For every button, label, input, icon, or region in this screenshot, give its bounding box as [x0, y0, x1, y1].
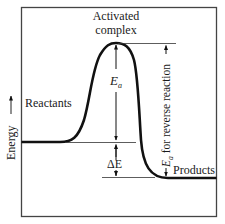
- plot-frame: [22, 8, 217, 217]
- ea-forward-label: Ea: [109, 73, 122, 90]
- energy-diagram: Energy Ea ΔE Ea for reverse reaction: [0, 0, 225, 224]
- energy-axis: Energy: [4, 96, 18, 160]
- ea-reverse-label: Ea for reverse reaction: [160, 64, 175, 168]
- products-label: Products: [173, 163, 215, 177]
- reactants-label: Reactants: [25, 96, 72, 110]
- activated-complex-label-line2: complex: [95, 23, 136, 37]
- activated-complex-label-line1: Activated: [93, 9, 140, 23]
- energy-axis-label: Energy: [4, 126, 18, 160]
- delta-e-label: ΔE: [107, 157, 122, 171]
